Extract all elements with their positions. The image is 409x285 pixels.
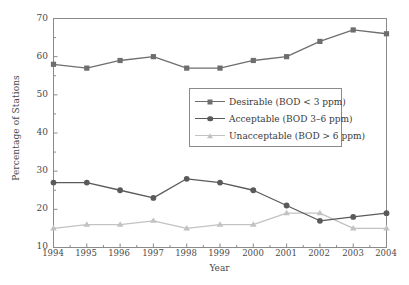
data-point: [51, 62, 56, 67]
data-point: [284, 203, 290, 209]
data-point: [151, 54, 156, 59]
legend-swatch-square-icon: [195, 96, 225, 108]
data-point: [184, 66, 189, 71]
data-point: [384, 31, 389, 36]
data-point: [150, 217, 157, 222]
legend-label: Acceptable (BOD 3–6 ppm): [229, 114, 353, 124]
legend-label: Unacceptable (BOD > 6 ppm): [229, 131, 365, 141]
data-point: [84, 180, 90, 186]
data-point: [250, 187, 256, 193]
legend-item-desirable: Desirable (BOD < 3 ppm): [195, 93, 346, 110]
legend-swatch-triangle-icon: [195, 130, 225, 142]
data-point: [317, 39, 322, 44]
data-point: [384, 210, 390, 216]
data-point: [317, 218, 323, 224]
data-point: [117, 187, 123, 193]
data-point: [118, 58, 123, 63]
data-point: [284, 54, 289, 59]
data-point: [350, 214, 356, 220]
legend-item-acceptable: Acceptable (BOD 3–6 ppm): [195, 110, 353, 127]
data-point: [251, 58, 256, 63]
legend-item-unacceptable: Unacceptable (BOD > 6 ppm): [195, 127, 365, 144]
data-point: [217, 180, 223, 186]
data-point: [51, 180, 57, 186]
data-point: [217, 66, 222, 71]
chart-figure: Percentage of Stations Year 70 60 50 40 …: [0, 0, 409, 285]
legend-label: Desirable (BOD < 3 ppm): [229, 97, 346, 107]
legend-swatch-circle-icon: [195, 113, 225, 125]
data-point: [184, 176, 190, 182]
data-point: [151, 195, 157, 201]
legend: Desirable (BOD < 3 ppm) Acceptable (BOD …: [189, 88, 342, 147]
data-point: [351, 27, 356, 32]
data-point: [84, 66, 89, 71]
